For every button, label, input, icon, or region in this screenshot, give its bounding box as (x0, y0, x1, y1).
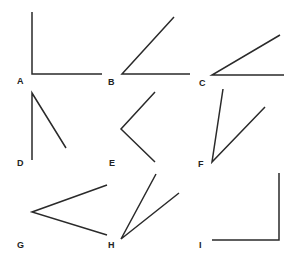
angle-i-arms (212, 173, 279, 240)
angle-h: H (108, 174, 179, 250)
angle-e: E (109, 92, 155, 168)
angle-c: C (199, 35, 284, 88)
angle-d: D (17, 93, 66, 168)
angle-a: A (17, 12, 102, 86)
angle-f: F (198, 89, 265, 169)
angle-f-label: F (198, 159, 204, 169)
angle-i-label: I (199, 240, 202, 250)
angle-b-arms (122, 17, 190, 74)
angle-g-label: G (17, 240, 24, 250)
angle-b-label: B (108, 77, 115, 87)
angle-d-arms (32, 93, 66, 160)
angle-g: G (17, 185, 107, 250)
angle-c-label: C (199, 78, 206, 88)
angle-c-arms (212, 35, 284, 75)
angle-d-label: D (17, 158, 24, 168)
angles-diagram: A B C D E F G H I (0, 0, 300, 263)
angle-g-arms (32, 185, 107, 235)
angle-b: B (108, 17, 190, 87)
angle-a-label: A (17, 76, 24, 86)
angle-f-arms (212, 89, 265, 162)
angle-e-arms (121, 92, 155, 162)
angle-h-arms (121, 174, 179, 239)
angle-e-label: E (109, 158, 115, 168)
angle-h-label: H (108, 240, 115, 250)
angle-a-arms (32, 12, 102, 74)
angle-i: I (199, 173, 279, 250)
